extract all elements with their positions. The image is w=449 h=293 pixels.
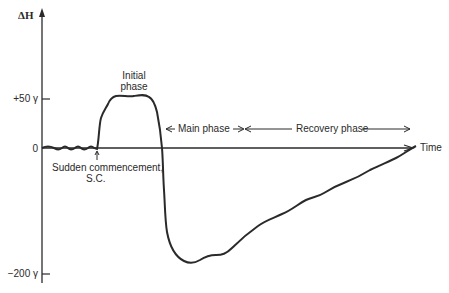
initial-phase-label-1: Initial bbox=[112, 70, 156, 81]
recovery-phase-label: Recovery phase bbox=[296, 123, 368, 134]
sudden-commencement-label-2: S.C. bbox=[86, 173, 105, 184]
y-tick-label-minus200: −200 γ bbox=[0, 268, 38, 279]
y-tick-label-plus50: +50 γ bbox=[0, 93, 38, 104]
x-axis-label: Time bbox=[420, 142, 442, 153]
sudden-commencement-label-1: Sudden commencement, bbox=[52, 162, 163, 173]
y-axis-label: ΔH bbox=[18, 10, 33, 21]
storm-diagram bbox=[0, 0, 449, 293]
main-phase-label: Main phase bbox=[178, 123, 230, 134]
initial-phase-label-2: phase bbox=[112, 81, 156, 92]
y-tick-label-zero: 0 bbox=[0, 143, 38, 154]
y-axis-arrow-icon bbox=[39, 8, 45, 17]
